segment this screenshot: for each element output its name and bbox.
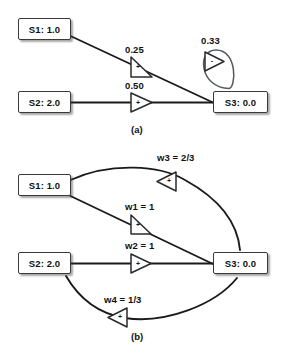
- figure-canvas: S1: 1.0 S2: 2.0 S3: 0.0 0.25 0.50 0.33 +…: [0, 0, 287, 354]
- node-s2-panel-a[interactable]: S2: 2.0: [18, 91, 71, 113]
- gate-sign-025: +: [132, 63, 144, 70]
- node-s3-label-a: S3: 0.0: [225, 97, 256, 108]
- gate-sign-w2: +: [132, 260, 144, 267]
- edge-line-w4: [66, 276, 237, 319]
- node-s1-label-b: S1: 1.0: [29, 180, 60, 191]
- gate-sign-050: +: [132, 99, 144, 106]
- edge-label-w3: w3 = 2/3: [157, 152, 195, 163]
- edge-label-050: 0.50: [125, 80, 144, 91]
- caption-panel-b: (b): [131, 331, 143, 342]
- node-s2-label-a: S2: 2.0: [29, 97, 60, 108]
- gate-sign-w3: +: [163, 177, 175, 184]
- edge-label-033: 0.33: [201, 35, 220, 46]
- node-s1-label-a: S1: 1.0: [29, 24, 60, 35]
- gate-sign-033: -: [206, 57, 218, 64]
- edge-label-w1: w1 = 1: [125, 201, 154, 212]
- node-s1-panel-a[interactable]: S1: 1.0: [18, 18, 71, 40]
- gate-sign-w4: +: [114, 313, 126, 320]
- gate-sign-w1: +: [132, 221, 144, 228]
- caption-panel-a: (a): [131, 124, 143, 135]
- node-s3-panel-b[interactable]: S3: 0.0: [213, 252, 268, 274]
- edge-label-025: 0.25: [125, 44, 144, 55]
- node-s2-panel-b[interactable]: S2: 2.0: [18, 252, 71, 274]
- node-s3-panel-a[interactable]: S3: 0.0: [213, 91, 268, 113]
- edge-label-w2: w2 = 1: [125, 240, 154, 251]
- node-s2-label-b: S2: 2.0: [29, 258, 60, 269]
- node-s1-panel-b[interactable]: S1: 1.0: [18, 174, 71, 196]
- edge-label-w4: w4 = 1/3: [104, 294, 142, 305]
- node-s3-label-b: S3: 0.0: [225, 258, 256, 269]
